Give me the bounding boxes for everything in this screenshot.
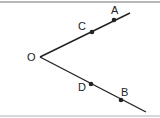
label-c: C xyxy=(78,20,86,32)
label-a: A xyxy=(111,4,119,16)
point-b-dot xyxy=(119,98,124,103)
geometry-diagram: O CADB xyxy=(0,0,160,118)
label-o: O xyxy=(27,51,36,63)
point-d-dot xyxy=(89,82,94,87)
point-a-dot xyxy=(112,18,117,23)
point-c-dot xyxy=(90,30,95,35)
label-b: B xyxy=(121,86,128,98)
label-d: D xyxy=(78,81,86,93)
